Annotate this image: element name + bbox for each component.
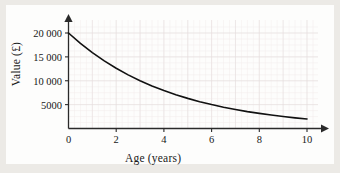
x-axis-label: Age (years) xyxy=(125,152,181,164)
value-vs-age-chart xyxy=(0,0,340,173)
grid-minor xyxy=(69,20,319,129)
figure-container: Value (£) Age (years) 500010 00015 00020… xyxy=(0,0,340,173)
x-tick-label: 4 xyxy=(161,134,166,145)
y-tick-label: 10 000 xyxy=(10,75,62,86)
y-tick-label: 15 000 xyxy=(10,51,62,62)
y-tick-label: 5000 xyxy=(10,99,62,110)
x-tick-label: 0 xyxy=(66,134,71,145)
y-tick-label: 20 000 xyxy=(10,28,62,39)
axis-ticks xyxy=(65,33,307,132)
x-tick-label: 8 xyxy=(257,134,262,145)
x-tick-label: 2 xyxy=(114,134,119,145)
grid-major xyxy=(69,20,319,129)
x-tick-label: 10 xyxy=(302,134,313,145)
x-tick-label: 6 xyxy=(209,134,214,145)
